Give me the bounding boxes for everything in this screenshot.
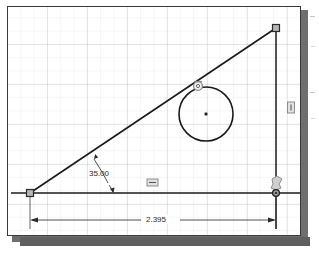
- apex-vertex-marker[interactable]: [273, 25, 280, 32]
- edge-tick-mark: [310, 16, 315, 17]
- origin-vertex-marker[interactable]: [27, 190, 34, 197]
- edge-tick-mark: [311, 46, 315, 47]
- angle-dimension-value[interactable]: 35.00: [89, 169, 109, 178]
- inclined-line[interactable]: [30, 28, 276, 193]
- horizontal-icon[interactable]: [147, 179, 158, 186]
- circle-center-point[interactable]: [205, 113, 208, 116]
- cad-sketch-window: 35.00 2.395: [0, 0, 319, 256]
- edge-tick-mark: [310, 92, 315, 93]
- sketch-geometry-layer[interactable]: [8, 7, 301, 236]
- tangent-icon[interactable]: [194, 82, 203, 91]
- sketch-canvas[interactable]: 35.00 2.395: [7, 6, 301, 236]
- edge-tick-mark: [311, 118, 315, 119]
- linear-dimension-value[interactable]: 2.395: [144, 215, 168, 224]
- window-drop-shadow-bottom: [20, 237, 310, 246]
- vertical-icon[interactable]: [288, 102, 295, 113]
- linear-dimension[interactable]: [30, 197, 276, 229]
